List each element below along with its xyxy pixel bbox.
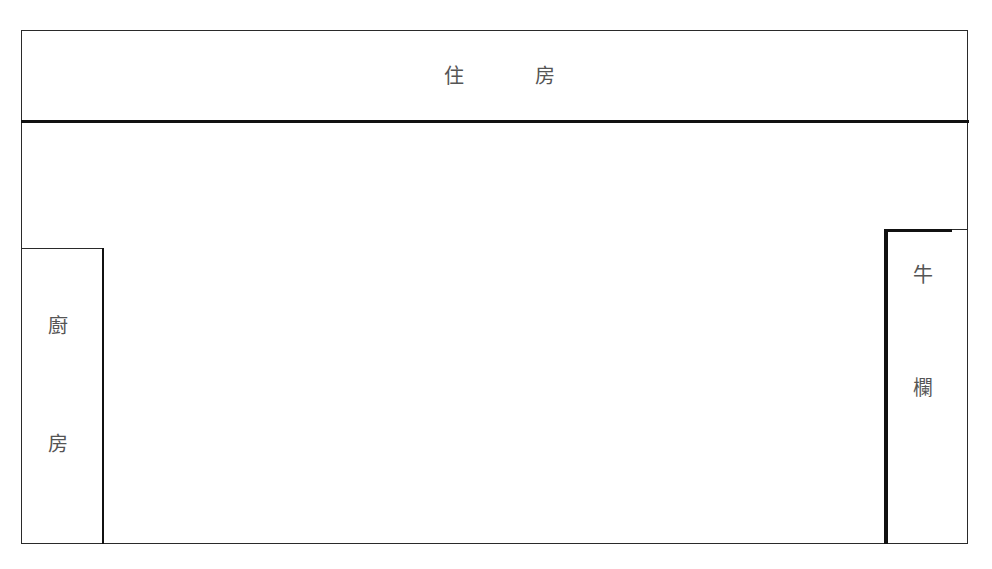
cattle-pen-top-wall-thick [884,229,952,232]
cattle-pen-left-wall [884,229,888,544]
kitchen-label-char-2: 房 [48,434,68,454]
cattle-pen-label-char-1: 牛 [913,265,933,285]
kitchen-top-wall [21,248,103,249]
outer-right-wall [967,30,968,544]
kitchen-right-wall [102,248,104,544]
cattle-pen-label-char-2: 欄 [913,378,933,398]
floor-plan: 住 房 廚 房 牛 欄 [0,0,992,569]
house-divider-wall [21,120,969,123]
outer-left-wall [21,30,22,544]
outer-bottom-wall [21,543,968,544]
cattle-pen-top-wall-thin [952,229,968,230]
outer-top-wall [21,30,968,31]
kitchen-label-char-1: 廚 [48,316,68,336]
house-label-char-1: 住 [444,66,464,86]
house-label-char-2: 房 [535,66,555,86]
